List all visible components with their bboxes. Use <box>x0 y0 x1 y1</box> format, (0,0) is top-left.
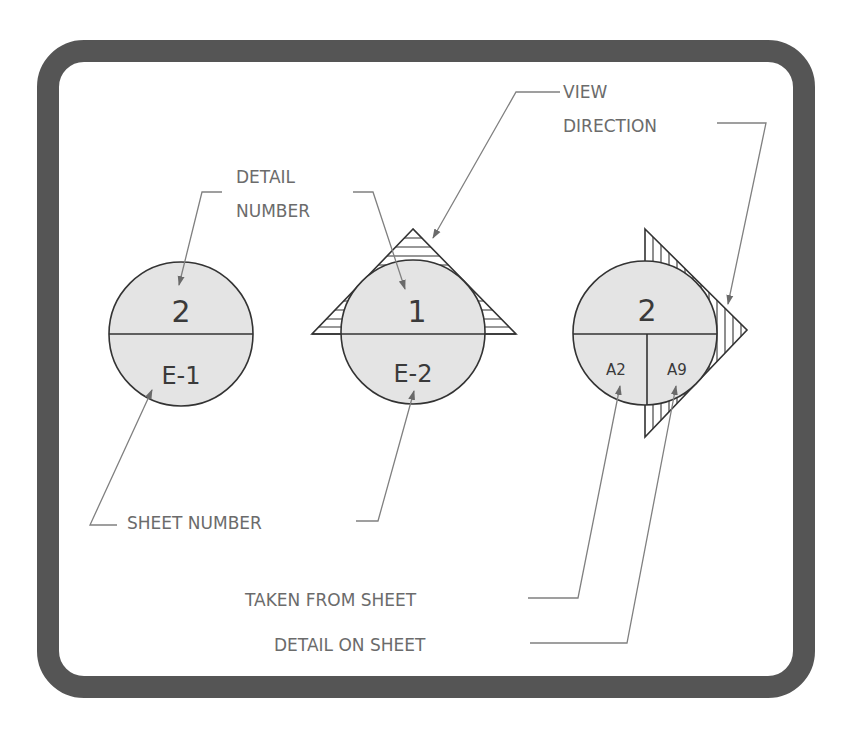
section-circle <box>573 261 717 405</box>
sheet-number-text: E-1 <box>161 362 200 390</box>
sheet-number-text: E-2 <box>393 360 432 388</box>
detail-on-sheet-text: A9 <box>667 361 687 379</box>
detail-callout-symbol: 2 E-1 <box>109 262 253 406</box>
detail-number-text: 2 <box>637 293 656 328</box>
detail-number-text: 1 <box>407 294 426 329</box>
label-detail-number-line2: NUMBER <box>236 201 310 221</box>
callout-diagram: 2 E-1 1 E-2 <box>0 0 847 729</box>
label-detail-on-sheet: DETAIL ON SHEET <box>274 635 426 655</box>
label-taken-from-sheet: TAKEN FROM SHEET <box>244 590 417 610</box>
detail-number-text: 2 <box>171 294 190 329</box>
taken-from-sheet-text: A2 <box>606 361 626 379</box>
label-view-direction-line2: DIRECTION <box>563 116 657 136</box>
label-detail-number-line1: DETAIL <box>236 167 296 187</box>
label-sheet-number: SHEET NUMBER <box>127 513 262 533</box>
label-view-direction-line1: VIEW <box>563 82 607 102</box>
